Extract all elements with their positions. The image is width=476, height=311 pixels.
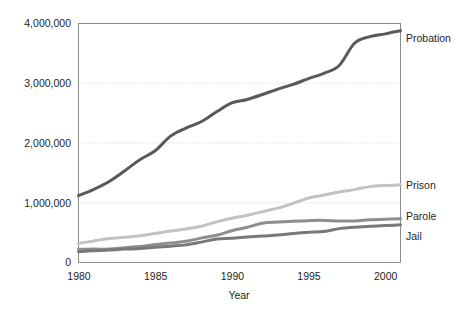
xtick-label-1995: 1995 [297,270,321,282]
chart-container: 0 1,000,000 2,000,000 3,000,000 4,000,00… [0,0,476,311]
y-axis-tick-labels: 0 1,000,000 2,000,000 3,000,000 4,000,00… [24,17,71,268]
ytick-label-4000000: 4,000,000 [24,17,71,29]
xtick-label-1980: 1980 [67,270,91,282]
data-series [79,31,401,252]
series-label-prison: Prison [406,179,436,191]
x-axis-title: Year [228,289,250,301]
series-line-parole [79,219,401,250]
series-label-parole: Parole [406,210,437,222]
x-axis-tick-labels: 1980 1985 1990 1995 2000 [67,270,397,282]
series-label-jail: Jail [406,230,422,242]
xtick-label-1985: 1985 [144,270,168,282]
xtick-label-2000: 2000 [374,270,398,282]
series-label-probation: Probation [406,32,451,44]
series-labels: Probation Prison Parole Jail [406,32,451,242]
series-line-prison [79,185,401,244]
ytick-label-2000000: 2,000,000 [24,137,71,149]
ytick-label-0: 0 [65,256,71,268]
ytick-label-3000000: 3,000,000 [24,77,71,89]
series-line-probation [79,31,401,196]
ytick-label-1000000: 1,000,000 [24,197,71,209]
xtick-label-1990: 1990 [221,270,245,282]
line-chart: 0 1,000,000 2,000,000 3,000,000 4,000,00… [0,0,476,311]
